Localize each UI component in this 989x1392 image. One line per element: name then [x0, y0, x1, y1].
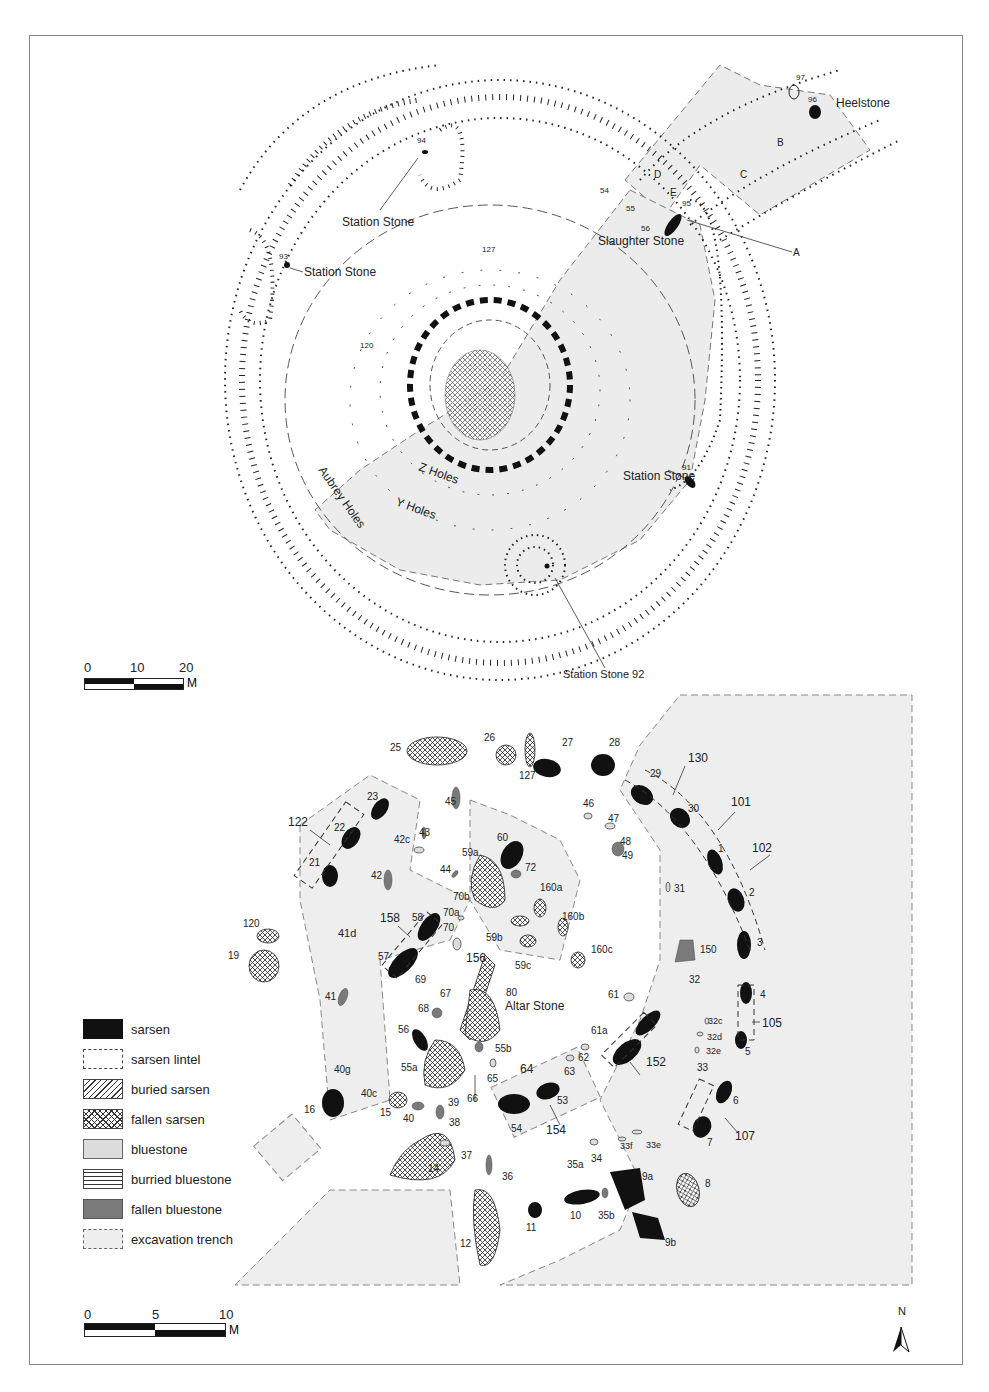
- svg-text:152: 152: [646, 1055, 666, 1069]
- svg-text:46: 46: [583, 798, 595, 809]
- svg-text:105: 105: [762, 1016, 782, 1030]
- svg-text:67: 67: [440, 988, 452, 999]
- svg-text:1: 1: [718, 843, 724, 854]
- station-stone-91-label: Station Stone: [623, 469, 695, 483]
- svg-text:41d: 41d: [338, 927, 356, 939]
- stone-number: 55: [626, 204, 635, 213]
- svg-text:22: 22: [334, 822, 346, 833]
- svg-text:19: 19: [228, 950, 240, 961]
- letter-label: A: [793, 247, 800, 258]
- letter-label: B: [777, 137, 784, 148]
- svg-text:10: 10: [570, 1210, 582, 1221]
- svg-text:65: 65: [487, 1073, 499, 1084]
- station-stone-94-label: Station Stone: [342, 215, 414, 229]
- buried-sarsen-swatch: [83, 1079, 123, 1099]
- stone-number: 127: [482, 245, 496, 254]
- svg-text:33e: 33e: [646, 1140, 661, 1150]
- svg-text:70a: 70a: [443, 907, 460, 918]
- svg-text:160a: 160a: [540, 882, 563, 893]
- legend-label: sarsen: [131, 1022, 170, 1037]
- svg-text:122: 122: [288, 815, 308, 829]
- sarsen-swatch: [83, 1019, 123, 1039]
- station-stone-93-label: Station Stone: [304, 265, 376, 279]
- fallen-sarsen-swatch: [83, 1109, 123, 1129]
- stone-number: 94: [417, 136, 426, 145]
- svg-text:3: 3: [757, 937, 763, 948]
- scale-tick: 20: [179, 660, 193, 675]
- svg-text:43: 43: [419, 827, 431, 838]
- svg-text:8: 8: [705, 1178, 711, 1189]
- svg-text:31: 31: [674, 883, 686, 894]
- svg-text:9b: 9b: [665, 1237, 677, 1248]
- svg-text:32e: 32e: [706, 1046, 721, 1056]
- upper-scale-bar: 0 10 20 M: [84, 660, 204, 690]
- svg-text:27: 27: [562, 737, 574, 748]
- stone-label-25: 25: [390, 742, 402, 753]
- stone-number: 54: [600, 186, 609, 195]
- svg-text:32: 32: [689, 974, 701, 985]
- svg-text:16: 16: [304, 1104, 316, 1115]
- legend-item-sarsen: sarsen: [83, 1014, 283, 1044]
- svg-text:62: 62: [578, 1052, 590, 1063]
- scale-tick: 0: [84, 660, 91, 675]
- svg-text:107: 107: [735, 1129, 755, 1143]
- scale-tick: 10: [130, 660, 144, 675]
- svg-text:56: 56: [398, 1024, 410, 1035]
- stone-number: 120: [360, 341, 374, 350]
- svg-text:6: 6: [733, 1095, 739, 1106]
- altar-stone-label: Altar Stone: [505, 999, 565, 1013]
- stone-number: 96: [808, 95, 817, 104]
- svg-text:32c: 32c: [708, 1016, 723, 1026]
- svg-text:7: 7: [707, 1137, 713, 1148]
- scale-tick: 0: [84, 1307, 91, 1322]
- svg-text:4: 4: [760, 989, 766, 1000]
- slaughter-stone-label: Slaughter Stone: [598, 234, 684, 248]
- svg-text:49: 49: [622, 850, 634, 861]
- stone-number: 56: [641, 224, 650, 233]
- svg-text:69: 69: [415, 974, 427, 985]
- scale-tick: 5: [152, 1307, 159, 1322]
- svg-text:55b: 55b: [495, 1043, 512, 1054]
- svg-text:72: 72: [525, 862, 537, 873]
- svg-text:120: 120: [243, 918, 260, 929]
- bluestone-swatch: [83, 1139, 123, 1159]
- svg-text:35a: 35a: [567, 1159, 584, 1170]
- svg-text:160c: 160c: [591, 944, 613, 955]
- letter-label: D: [654, 169, 661, 180]
- svg-text:15: 15: [380, 1107, 392, 1118]
- svg-text:61a: 61a: [591, 1025, 608, 1036]
- svg-text:53: 53: [557, 1095, 569, 1106]
- svg-text:154: 154: [546, 1123, 566, 1137]
- svg-text:64: 64: [520, 1062, 534, 1076]
- svg-text:26: 26: [484, 732, 496, 743]
- north-label: N: [890, 1305, 914, 1317]
- legend-label: fallen bluestone: [131, 1202, 222, 1217]
- scale-unit: M: [187, 676, 197, 690]
- svg-text:160b: 160b: [562, 911, 585, 922]
- svg-text:61: 61: [608, 989, 620, 1000]
- svg-text:158: 158: [380, 911, 400, 925]
- trench-swatch: [83, 1229, 123, 1249]
- svg-text:38: 38: [449, 1117, 461, 1128]
- svg-text:57: 57: [378, 951, 390, 962]
- svg-text:101: 101: [731, 795, 751, 809]
- svg-text:37: 37: [461, 1150, 473, 1161]
- svg-text:59a: 59a: [462, 847, 479, 858]
- svg-text:48: 48: [620, 836, 632, 847]
- fallen-bluestone-swatch: [83, 1199, 123, 1219]
- svg-text:127: 127: [519, 770, 536, 781]
- buried-bluestone-swatch: [83, 1169, 123, 1189]
- svg-text:59c: 59c: [515, 960, 531, 971]
- stone-number: 95: [682, 199, 691, 208]
- svg-text:35b: 35b: [598, 1210, 615, 1221]
- svg-text:59b: 59b: [486, 932, 503, 943]
- svg-text:9a: 9a: [642, 1171, 654, 1182]
- svg-text:42: 42: [371, 870, 383, 881]
- svg-text:39: 39: [448, 1097, 460, 1108]
- scale-tick: 10: [219, 1307, 233, 1322]
- lower-scale-bar: 0 5 10 M: [84, 1307, 254, 1337]
- svg-text:45: 45: [445, 796, 457, 807]
- heelstone-label: Heelstone: [836, 96, 890, 110]
- legend: sarsen sarsen lintel buried sarsen falle…: [83, 1014, 283, 1254]
- svg-text:40: 40: [403, 1113, 415, 1124]
